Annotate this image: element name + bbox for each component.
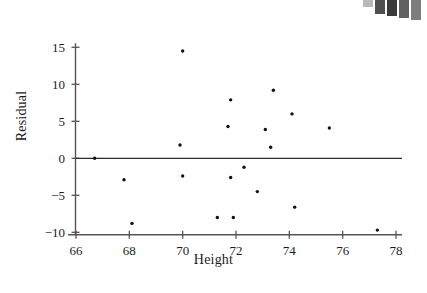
data-point — [293, 205, 296, 208]
y-tick-label: −10 — [20, 226, 65, 239]
data-point — [93, 157, 96, 160]
data-point — [242, 165, 245, 168]
data-point — [232, 216, 235, 219]
x-tick-label: 68 — [123, 244, 136, 257]
scatter-plot: Residual Height 151050−5−106668707274767… — [0, 0, 427, 293]
axes — [68, 43, 402, 239]
x-tick-label: 74 — [283, 244, 296, 257]
data-point — [216, 216, 219, 219]
data-point — [376, 228, 379, 231]
data-point — [178, 143, 181, 146]
x-tick-label: 76 — [336, 244, 349, 257]
data-point — [229, 98, 232, 101]
data-point — [229, 176, 232, 179]
y-tick-label: 10 — [20, 78, 65, 91]
x-tick-label: 66 — [70, 244, 83, 257]
data-point — [272, 89, 275, 92]
y-tick-label: 0 — [20, 152, 65, 165]
x-tick-label: 78 — [390, 244, 403, 257]
y-tick-label: 5 — [20, 115, 65, 128]
data-point — [226, 125, 229, 128]
data-point — [290, 112, 293, 115]
data-point — [181, 174, 184, 177]
y-tick-label: 15 — [20, 41, 65, 54]
data-point — [269, 146, 272, 149]
x-tick-label: 72 — [230, 244, 243, 257]
x-axis-title: Height — [0, 252, 427, 268]
data-points — [93, 49, 379, 231]
data-point — [130, 222, 133, 225]
data-point — [328, 126, 331, 129]
y-tick-label: −5 — [20, 189, 65, 202]
data-point — [181, 49, 184, 52]
data-point — [256, 190, 259, 193]
x-tick-label: 70 — [176, 244, 189, 257]
data-point — [264, 128, 267, 131]
data-point — [122, 178, 125, 181]
